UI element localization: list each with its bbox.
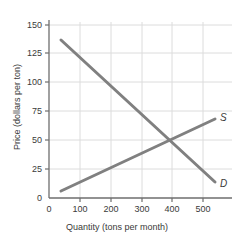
y-tick-label-0: 0	[14, 193, 42, 203]
supply-curve-label: S	[220, 112, 227, 123]
supply-curve-line	[61, 119, 215, 191]
y-tick-label-125: 125	[14, 48, 42, 58]
x-tick-label-500: 500	[191, 204, 215, 214]
y-tick-label-150: 150	[14, 20, 42, 30]
vertical-gridlines	[80, 22, 203, 198]
x-axis-title: Quantity (tons per month)	[66, 222, 168, 232]
x-tick-label-400: 400	[160, 204, 184, 214]
x-tick-label-0: 0	[39, 204, 59, 214]
y-tick-label-25: 25	[14, 164, 42, 174]
supply-demand-chart: 150 125 100 75 50 25 0 0 100 200 300 400…	[0, 0, 240, 240]
y-axis-title: Price (dollars per ton)	[12, 64, 22, 150]
demand-curve-label: D	[220, 178, 227, 189]
x-tick-label-100: 100	[68, 204, 92, 214]
horizontal-gridlines	[49, 25, 232, 169]
x-tick-label-200: 200	[99, 204, 123, 214]
x-tick-label-300: 300	[130, 204, 154, 214]
